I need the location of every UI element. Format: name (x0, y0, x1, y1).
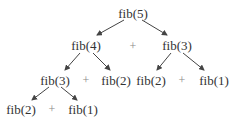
node-fib2-a: fib(2) (101, 74, 131, 87)
plus-operator: + (179, 74, 186, 86)
edge-arrow (142, 20, 167, 35)
node-fib1-b: fib(1) (68, 103, 98, 116)
edge-arrow (93, 53, 110, 70)
edge-arrow (183, 53, 204, 70)
node-fib4: fib(4) (71, 39, 101, 52)
plus-operator: + (83, 74, 90, 86)
node-fib3-right: fib(3) (162, 39, 192, 52)
node-fib2-b: fib(2) (136, 74, 166, 87)
node-fib1-a: fib(1) (199, 74, 229, 87)
plus-operator: + (49, 103, 56, 115)
edge-arrow (32, 87, 49, 100)
node-fib2-c: fib(2) (6, 103, 36, 116)
fibonacci-recursion-tree: fib(5) fib(4) fib(3) fib(3) fib(2) fib(2… (0, 0, 233, 127)
node-fib3-left: fib(3) (40, 74, 70, 87)
node-fib5: fib(5) (118, 7, 148, 20)
edge-arrow (157, 53, 171, 70)
edge-arrow (97, 20, 124, 35)
edge-arrow (65, 53, 80, 70)
edge-arrow (61, 87, 77, 100)
plus-operator: + (130, 40, 137, 52)
